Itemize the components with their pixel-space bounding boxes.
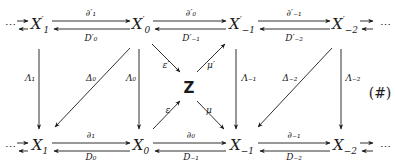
label-D-prime-minus2: D′₋₂ bbox=[285, 34, 303, 43]
label-mu-prime: μ′ bbox=[207, 61, 215, 70]
equation-tag: (#) bbox=[369, 85, 392, 101]
ellipsis-top-left: ⋯ bbox=[5, 19, 16, 32]
label-D-minus2: D₋₂ bbox=[286, 153, 302, 162]
label-lambda-minus1: Λ₋₁ bbox=[242, 74, 257, 83]
label-partial-minus1: ∂₋₁ bbox=[287, 131, 300, 140]
label-partial-prime-1: ∂′₁ bbox=[86, 9, 96, 18]
ellipsis-bottom-right: ⋯ bbox=[380, 141, 391, 154]
label-epsilon: ε bbox=[166, 106, 171, 115]
ellipsis-top-right: ⋯ bbox=[380, 19, 391, 32]
label-lambda-0: Λ₀ bbox=[126, 74, 136, 83]
node-x-prime-0: X′0 bbox=[132, 16, 150, 35]
label-D-prime-minus1: D′₋₁ bbox=[182, 34, 200, 43]
node-x-prime-minus2: X′−2 bbox=[332, 16, 358, 35]
node-x-prime-minus1: X′−1 bbox=[229, 16, 255, 35]
label-lambda-minus2: Λ₋₂ bbox=[346, 74, 361, 83]
label-delta-minus2: Δ₋₂ bbox=[283, 74, 298, 83]
node-x-1: X1 bbox=[32, 138, 48, 156]
label-partial-0: ∂₀ bbox=[187, 131, 195, 140]
node-x-prime-1: X′1 bbox=[31, 16, 49, 35]
node-x-minus1: X−1 bbox=[230, 138, 254, 156]
center-node-z: Z bbox=[184, 79, 195, 97]
label-D-minus1: D₋₁ bbox=[183, 153, 199, 162]
label-partial-prime-minus1: ∂′₋₁ bbox=[286, 9, 301, 18]
label-partial-1: ∂₁ bbox=[87, 131, 95, 140]
label-D-0: D₀ bbox=[86, 153, 97, 162]
label-lambda-1: Λ₁ bbox=[25, 74, 35, 83]
label-mu: μ bbox=[206, 106, 212, 115]
label-D-prime-0: D′₀ bbox=[85, 34, 98, 43]
node-x-minus2: X−2 bbox=[333, 138, 357, 156]
label-delta-0: Δ₀ bbox=[86, 74, 96, 83]
ellipsis-bottom-left: ⋯ bbox=[5, 141, 16, 154]
node-x-0: X0 bbox=[133, 138, 149, 156]
label-epsilon-prime: ε′ bbox=[163, 61, 170, 70]
label-partial-prime-0: ∂′₀ bbox=[186, 9, 196, 18]
